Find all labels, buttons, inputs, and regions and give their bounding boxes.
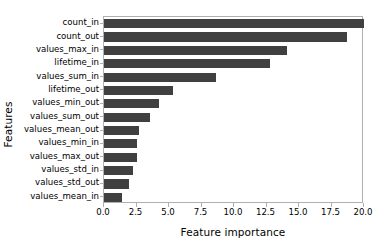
y-tick-label: values_std_out [0, 178, 99, 187]
x-tick-mark [136, 203, 137, 207]
y-tick-label: values_max_out [0, 152, 99, 161]
y-tick-label: values_std_in [0, 165, 99, 174]
bar-row [104, 139, 362, 148]
x-tick-mark [103, 203, 104, 207]
bar [104, 166, 133, 175]
feature-importance-chart: Features count_incount_outvalues_max_inl… [0, 0, 390, 249]
bar-row [104, 32, 362, 41]
y-tick-label: count_out [0, 32, 99, 41]
bar [104, 32, 347, 41]
bar-row [104, 59, 362, 68]
bar-series [104, 17, 362, 202]
bar [104, 126, 139, 135]
x-tick-label: 17.5 [321, 208, 340, 217]
bar-row [104, 179, 362, 188]
x-tick-mark [201, 203, 202, 207]
y-tick-label: values_sum_in [0, 72, 99, 81]
bar [104, 153, 137, 162]
x-tick-mark [233, 203, 234, 207]
x-tick-mark [266, 203, 267, 207]
x-tick-mark [331, 203, 332, 207]
bar [104, 179, 129, 188]
bar-row [104, 19, 362, 28]
y-tick-label: values_mean_in [0, 192, 99, 201]
bar [104, 113, 150, 122]
x-tick-label: 2.5 [129, 208, 143, 217]
x-tick-label: 0.0 [96, 208, 110, 217]
bar [104, 193, 122, 202]
bar-row [104, 166, 362, 175]
y-tick-label: lifetime_out [0, 85, 99, 94]
bar [104, 99, 159, 108]
y-tick-label: lifetime_in [0, 58, 99, 67]
y-tick-label: values_mean_out [0, 125, 99, 134]
bar-row [104, 193, 362, 202]
x-tick-mark [168, 203, 169, 207]
x-tick-label: 7.5 [194, 208, 208, 217]
bar [104, 19, 364, 28]
x-tick-label: 10.0 [223, 208, 242, 217]
x-tick-mark [298, 203, 299, 207]
plot-area [103, 16, 363, 203]
x-tick-label: 12.5 [256, 208, 275, 217]
y-tick-label: count_in [0, 18, 99, 27]
bar-row [104, 73, 362, 82]
bar [104, 59, 270, 68]
y-tick-label: values_min_out [0, 98, 99, 107]
bar-row [104, 113, 362, 122]
bar-row [104, 99, 362, 108]
y-tick-label: values_sum_out [0, 112, 99, 121]
y-tick-label: values_min_in [0, 138, 99, 147]
bar [104, 139, 137, 148]
bar [104, 86, 173, 95]
y-axis-tick-labels: count_incount_outvalues_max_inlifetime_i… [0, 16, 99, 203]
bar-row [104, 86, 362, 95]
x-tick-label: 15.0 [288, 208, 307, 217]
x-tick-label: 20.0 [353, 208, 372, 217]
bar-row [104, 126, 362, 135]
x-axis-tick-labels: 0.02.55.07.510.012.515.017.520.0 [103, 203, 363, 225]
bar-row [104, 153, 362, 162]
y-tick-label: values_max_in [0, 45, 99, 54]
x-tick-label: 5.0 [161, 208, 175, 217]
bar [104, 46, 287, 55]
bar [104, 73, 216, 82]
x-axis-label: Feature importance [103, 226, 363, 238]
bar-row [104, 46, 362, 55]
x-tick-mark [363, 203, 364, 207]
